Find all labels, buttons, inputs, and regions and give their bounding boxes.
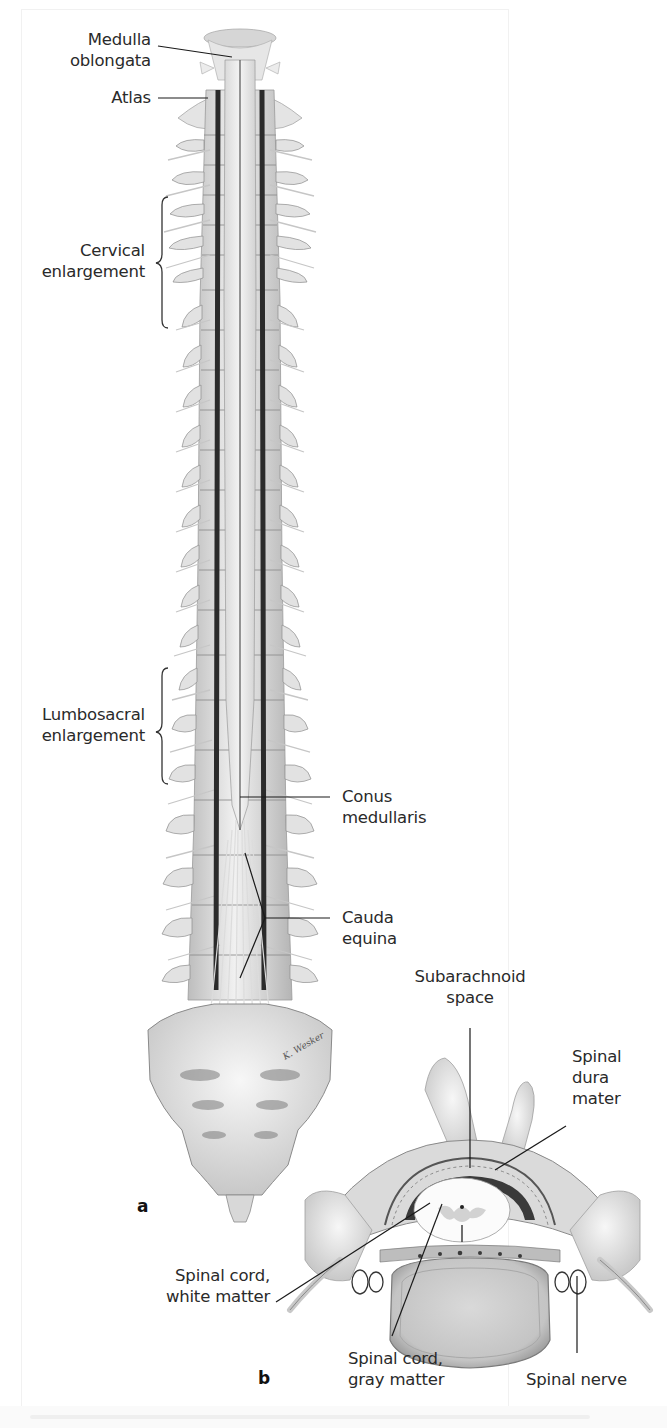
label-subarachnoid-space: Subarachnoid space (410, 966, 530, 1008)
vertebral-column: K. Wesker (148, 29, 332, 1222)
label-spinal-nerve: Spinal nerve (526, 1369, 627, 1390)
label-white-matter: Spinal cord, white matter (166, 1265, 270, 1307)
label-atlas: Atlas (111, 87, 151, 108)
label-conus-medullaris: Conus medullaris (342, 786, 426, 828)
label-lumbosacral-enlargement: Lumbosacral enlargement (42, 704, 145, 746)
label-medulla-oblongata: Medulla oblongata (70, 29, 151, 71)
bottom-caption-strip (0, 1406, 667, 1428)
cervical-brace (156, 197, 168, 328)
label-cervical-enlargement: Cervical enlargement (42, 240, 145, 282)
lumbosacral-brace (156, 668, 168, 784)
braces (156, 197, 168, 784)
label-gray-matter: Spinal cord, gray matter (348, 1348, 444, 1390)
label-cauda-equina: Cauda equina (342, 907, 397, 949)
panel-label-a: a (137, 1196, 148, 1216)
panel-label-b: b (258, 1368, 270, 1388)
label-spinal-dura-mater: Spinal dura mater (572, 1046, 621, 1109)
